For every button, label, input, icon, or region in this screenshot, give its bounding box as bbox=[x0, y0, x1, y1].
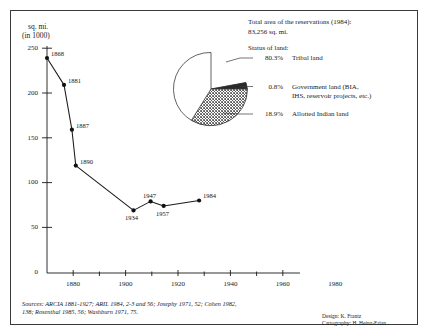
point-label-1957: 1957 bbox=[156, 210, 169, 217]
sources-note: Sources: ARCIA 1881-1927; ARIL 1984, 2-3… bbox=[22, 300, 292, 316]
data-point-1868 bbox=[45, 56, 49, 60]
data-point-1887 bbox=[70, 128, 74, 132]
y-tick-label-50: 50 bbox=[12, 223, 38, 231]
y-tick-label-200: 200 bbox=[12, 89, 38, 97]
status-of-land-label: Status of land: bbox=[248, 44, 288, 52]
legend-label-allotted-indian-land: Allotted Indian land bbox=[292, 110, 348, 120]
data-point-1934 bbox=[131, 208, 135, 212]
data-point-1890 bbox=[74, 164, 78, 168]
y-tick-label-150: 150 bbox=[12, 134, 38, 142]
legend-pct-tribal-land: 80.3% bbox=[253, 54, 283, 62]
pie-slice-government-land bbox=[211, 83, 248, 89]
x-tick-label-1900: 1900 bbox=[112, 280, 140, 288]
legend-pct-allotted-indian-land: 18.9% bbox=[253, 110, 283, 118]
credit-note: Design: K. Frantz Cartography: H. Heinz-… bbox=[322, 313, 386, 327]
legend-label-tribal-land: Tribal land bbox=[292, 54, 323, 64]
point-label-1934: 1934 bbox=[125, 214, 138, 221]
data-point-1881 bbox=[62, 83, 66, 87]
x-tick-label-1940: 1940 bbox=[216, 280, 244, 288]
data-point-1957 bbox=[162, 204, 166, 208]
point-label-1887: 1887 bbox=[76, 122, 89, 129]
pie-chart bbox=[173, 52, 247, 125]
x-tick-label-1920: 1920 bbox=[164, 280, 192, 288]
legend-label-government-land: Government land (BIA, IHS, reservoir pro… bbox=[292, 83, 371, 102]
point-label-1868: 1868 bbox=[51, 50, 64, 57]
leader-line-tribal bbox=[226, 58, 253, 62]
y-tick-label-100: 100 bbox=[12, 178, 38, 186]
total-area-annotation: Total area of the reservations (1984): 8… bbox=[248, 18, 352, 37]
legend-pct-government-land: 0.8% bbox=[253, 83, 283, 91]
y-tick-label-250: 250 bbox=[12, 44, 38, 52]
x-tick-label-1960: 1960 bbox=[269, 280, 297, 288]
point-label-1984: 1984 bbox=[203, 192, 216, 199]
figure-root: sq. mi. (in 1000) bbox=[0, 0, 429, 336]
x-tick-label-1880: 1880 bbox=[59, 280, 87, 288]
y-tick-label-0: 0 bbox=[12, 268, 38, 276]
point-label-1890: 1890 bbox=[80, 158, 93, 165]
data-point-1984 bbox=[197, 198, 201, 202]
point-label-1881: 1881 bbox=[68, 77, 81, 84]
data-point-1947 bbox=[149, 199, 153, 203]
x-tick-label-1980: 1980 bbox=[321, 280, 349, 288]
point-label-1947: 1947 bbox=[143, 192, 156, 199]
